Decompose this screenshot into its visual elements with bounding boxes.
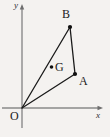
y-axis-arrowhead: [20, 4, 24, 10]
segment-AB: [70, 27, 75, 74]
point-marker-A: [73, 72, 77, 76]
point-marker-G: [50, 65, 54, 69]
geometry-figure: O A B G x y: [0, 0, 110, 137]
point-label-G: G: [55, 61, 64, 73]
segment-OA: [22, 74, 75, 108]
point-label-O: O: [10, 110, 19, 122]
x-axis-label: x: [96, 111, 100, 120]
point-label-A: A: [79, 75, 88, 87]
y-axis-label: y: [14, 1, 18, 10]
point-label-B: B: [62, 8, 70, 20]
point-marker-B: [68, 25, 72, 29]
